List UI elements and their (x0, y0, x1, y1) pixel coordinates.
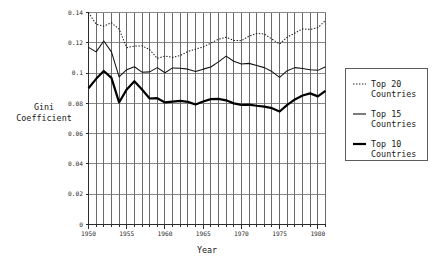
x-tick-label-1980: 1980 (310, 230, 325, 237)
vertical-gridlines (89, 13, 326, 225)
y-axis-title-line1: Gini (34, 102, 54, 112)
y-tick-label-0.04: 0.04 (68, 160, 83, 167)
plot-axes (89, 13, 326, 225)
y-tick-label-0.06: 0.06 (68, 130, 83, 137)
legend-label-top10-line1: Top 10 (371, 139, 401, 149)
y-tick-label-0: 0 (79, 221, 83, 228)
y-tick-label-0.1: 0.1 (72, 69, 83, 76)
legend-label-top15-line1: Top 15 (371, 109, 401, 119)
x-axis-ticks (89, 225, 326, 229)
y-axis-title-line2: Coefficient (16, 113, 71, 123)
legend-label-top20-line2: Countries (371, 89, 416, 99)
legend-label-top10-line2: Countries (371, 149, 416, 159)
x-tick-label-1975: 1975 (272, 230, 287, 237)
y-tick-label-0.14: 0.14 (68, 9, 83, 16)
y-tick-label-0.02: 0.02 (68, 190, 83, 197)
chart-svg: 00.020.040.060.080.10.120.14 19501955196… (0, 0, 435, 263)
x-tick-label-1950: 1950 (81, 230, 96, 237)
x-tick-label-1965: 1965 (196, 230, 211, 237)
x-axis-tick-labels: 1950195519601965197019751980 (81, 230, 326, 237)
y-tick-label-0.08: 0.08 (68, 100, 83, 107)
legend-label-top20-line1: Top 20 (371, 79, 401, 89)
series-line-top-20-countries (89, 13, 326, 59)
chart-legend: Top 20 Countries Top 15 Countries Top 10… (346, 69, 428, 161)
x-tick-label-1960: 1960 (157, 230, 172, 237)
series-line-top-10-countries (89, 71, 326, 112)
legend-label-top15-line2: Countries (371, 119, 416, 129)
y-tick-label-0.12: 0.12 (68, 39, 83, 46)
x-axis-title: Year (197, 245, 217, 255)
x-tick-label-1970: 1970 (234, 230, 249, 237)
data-series-layer (89, 13, 326, 112)
chart-figure: 00.020.040.060.080.10.120.14 19501955196… (0, 0, 435, 263)
x-tick-label-1955: 1955 (119, 230, 134, 237)
series-line-top-15-countries (89, 41, 326, 77)
